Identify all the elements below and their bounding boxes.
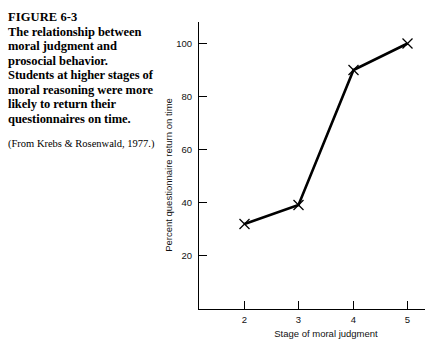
x-tick-label-4: 4: [351, 314, 356, 325]
chart-svg: 100 80 60 40 20 2 3 4 5 Stage of moral j…: [150, 0, 432, 339]
x-axis-tick-labels: 2 3 4 5: [242, 314, 410, 325]
data-series-line: [245, 44, 408, 225]
x-tick-label-3: 3: [296, 314, 301, 325]
figure-caption-text: The relationship between moral judgment …: [8, 25, 156, 127]
y-tick-label-20: 20: [181, 250, 192, 261]
y-axis-title: Percent questionnaire return on time: [163, 98, 174, 252]
y-tick-label-40: 40: [181, 197, 192, 208]
x-axis-ticks: [245, 301, 408, 309]
y-axis-tick-labels: 100 80 60 40 20: [176, 38, 192, 261]
figure-caption-block: FIGURE 6-3 The relationship between mora…: [8, 10, 156, 126]
y-axis-ticks: [199, 44, 207, 256]
x-tick-label-2: 2: [242, 314, 247, 325]
data-point-markers: [240, 39, 413, 230]
data-point-5: [403, 39, 413, 49]
y-tick-label-60: 60: [181, 144, 192, 155]
x-axis-title: Stage of moral judgment: [274, 328, 378, 339]
y-tick-label-80: 80: [181, 91, 192, 102]
figure-source-attribution: (From Krebs & Rosenwald, 1977.): [8, 138, 158, 150]
line-chart: 100 80 60 40 20 2 3 4 5 Stage of moral j…: [150, 0, 432, 339]
x-tick-label-5: 5: [405, 314, 410, 325]
data-point-4: [349, 65, 359, 75]
figure-container: FIGURE 6-3 The relationship between mora…: [0, 0, 432, 339]
figure-number: FIGURE 6-3: [8, 10, 156, 25]
y-tick-label-100: 100: [176, 38, 192, 49]
